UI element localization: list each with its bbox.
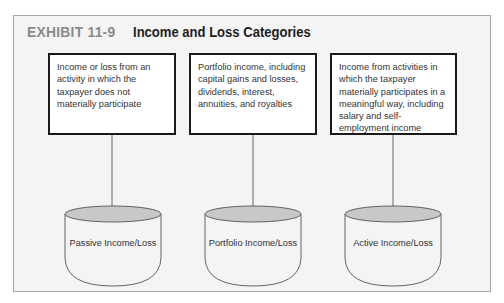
portfolio-description-box: Portfolio income, including capital gain…	[189, 53, 317, 135]
active-bucket-label: Active Income/Loss	[333, 238, 453, 248]
active-description-box: Income from activities in which the taxp…	[330, 53, 457, 135]
exhibit-title: Income and Loss Categories	[133, 24, 311, 40]
exhibit-number: EXHIBIT 11-9	[27, 23, 115, 40]
exhibit-header: EXHIBIT 11-9 Income and Loss Categories	[27, 23, 331, 43]
passive-bucket-label: Passive Income/Loss	[53, 238, 173, 248]
passive-description-box: Income or loss from an activity in which…	[48, 53, 176, 135]
portfolio-description-text: Portfolio income, including capital gain…	[198, 62, 305, 109]
passive-description-text: Income or loss from an activity in which…	[57, 62, 150, 109]
portfolio-bucket-label: Portfolio Income/Loss	[193, 238, 313, 248]
active-description-text: Income from activities in which the taxp…	[339, 62, 445, 133]
